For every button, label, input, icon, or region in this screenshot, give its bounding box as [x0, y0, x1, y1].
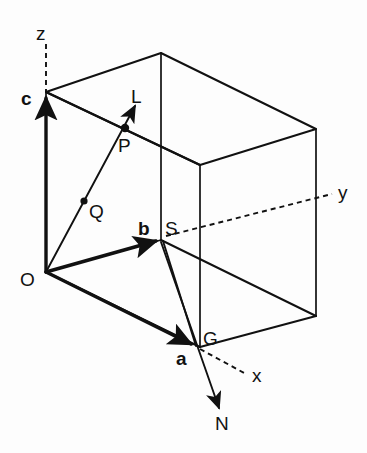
- trace-S-to-G: [163, 241, 196, 346]
- label-point-S: S: [165, 218, 178, 239]
- label-vector-a: a: [176, 348, 187, 369]
- label-axis-y: y: [338, 182, 348, 203]
- vector-a-arrow: [46, 272, 191, 344]
- label-axis-x: x: [252, 365, 262, 386]
- label-point-L: L: [131, 86, 142, 107]
- point-P-marker: [121, 124, 129, 132]
- label-vector-c: c: [21, 88, 32, 109]
- point-Q-marker: [80, 197, 87, 204]
- x-axis-dashed-line: [200, 349, 246, 374]
- label-point-N: N: [215, 413, 229, 434]
- label-axis-z: z: [36, 23, 46, 44]
- box-bottom-back-right-edge: [161, 240, 316, 316]
- label-point-P: P: [118, 135, 131, 156]
- ray-O-to-L: [46, 106, 135, 272]
- label-point-Q: Q: [89, 201, 104, 222]
- box-top-face-edges: [46, 53, 316, 165]
- label-point-G: G: [203, 328, 218, 349]
- y-axis-dashed-line: [166, 194, 332, 236]
- figure-canvas: z y x O c b a L P Q S G N: [0, 0, 367, 453]
- label-vector-b: b: [138, 218, 150, 239]
- unit-cell-diagram: z y x O c b a L P Q S G N: [0, 0, 367, 453]
- label-origin-O: O: [20, 269, 35, 290]
- normal-ray-OL: [46, 106, 135, 272]
- vector-b-arrow: [46, 241, 156, 272]
